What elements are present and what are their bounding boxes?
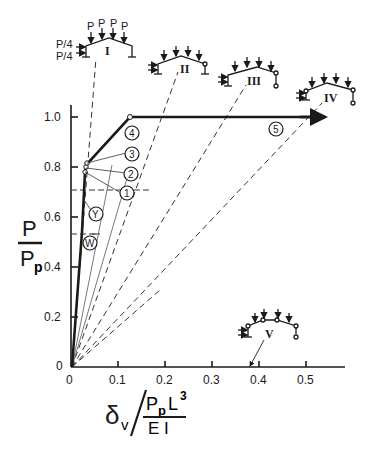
svg-text:5: 5 (273, 124, 279, 135)
x-tick-0.2: 0.2 (156, 373, 173, 387)
mechanism-leader-lines (72, 58, 322, 367)
svg-text:P/4: P/4 (56, 38, 73, 50)
y-tick-0.2: 0.2 (44, 310, 61, 324)
svg-text:P: P (22, 216, 37, 241)
svg-text:3: 3 (129, 149, 135, 160)
svg-text:W: W (85, 238, 95, 249)
svg-text:2: 2 (128, 169, 134, 180)
svg-text:v: v (121, 416, 129, 433)
svg-text:P/4: P/4 (56, 50, 73, 62)
svg-text:III: III (247, 74, 261, 88)
load-deflection-curve (71, 117, 325, 367)
x-tick-labels: 0 0.1 0.2 0.3 0.4 0.5 (66, 373, 314, 387)
svg-text:P: P (20, 246, 35, 271)
svg-text:II: II (180, 62, 190, 76)
leader-IV (72, 103, 322, 367)
x-tick-0: 0 (66, 373, 73, 387)
svg-text:IV: IV (324, 91, 338, 105)
svg-text:3: 3 (180, 389, 187, 403)
svg-text:p: p (34, 259, 43, 275)
origin-label: 0 (56, 359, 63, 373)
circled-markers (83, 122, 283, 250)
x-tick-0.5: 0.5 (297, 373, 314, 387)
y-tick-0.6: 0.6 (44, 210, 61, 224)
axes (71, 105, 345, 367)
svg-text:P: P (121, 20, 128, 32)
svg-text:4: 4 (129, 128, 135, 139)
svg-text:E I: E I (148, 419, 169, 438)
svg-text:P: P (110, 17, 117, 29)
y-tick-labels: 1.0 0.8 0.6 0.4 0.2 0 (44, 110, 63, 373)
y-tick-1.0: 1.0 (44, 110, 61, 124)
frame-II (148, 46, 209, 74)
svg-text:δ: δ (105, 400, 119, 430)
y-tick-0.8: 0.8 (44, 160, 61, 174)
svg-text:p: p (158, 403, 166, 418)
svg-text:1: 1 (124, 188, 130, 199)
svg-text:L: L (168, 394, 178, 414)
x-tick-0.4: 0.4 (250, 373, 267, 387)
load-deflection-chart: 1.0 0.8 0.6 0.4 0.2 0 0 0.1 0.2 0.3 0.4 … (0, 0, 370, 457)
svg-text:V: V (265, 327, 274, 341)
svg-text:P: P (146, 394, 158, 414)
svg-text:Y: Y (92, 209, 99, 220)
y-axis-label: P P p (18, 216, 43, 275)
x-tick-0.3: 0.3 (203, 373, 220, 387)
svg-text:P: P (87, 20, 94, 32)
svg-text:P: P (98, 17, 105, 29)
y-tick-0.4: 0.4 (44, 260, 61, 274)
x-axis-label: δ v P p L 3 E I (105, 389, 187, 438)
svg-text:I: I (105, 44, 110, 58)
x-tick-0.1: 0.1 (109, 373, 126, 387)
